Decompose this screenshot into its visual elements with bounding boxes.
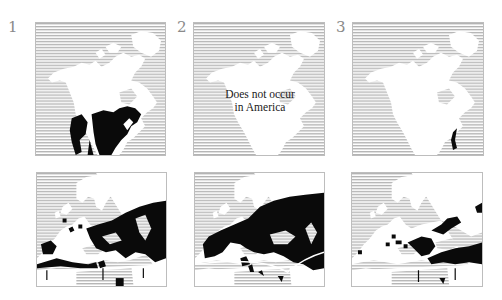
- note-line-2: in America: [215, 101, 305, 114]
- map-north-america-1: [35, 22, 166, 156]
- map-north-america-3: [352, 22, 484, 156]
- map-europe-1: [36, 172, 167, 287]
- column-number-1: 1: [8, 20, 18, 35]
- column-number-3: 3: [336, 20, 346, 35]
- map-europe-3: [351, 172, 483, 287]
- note-line-1: Does not occur: [215, 88, 305, 101]
- column-number-2: 2: [177, 20, 187, 35]
- does-not-occur-note: Does not occur in America: [215, 88, 305, 114]
- map-europe-2: [194, 172, 325, 287]
